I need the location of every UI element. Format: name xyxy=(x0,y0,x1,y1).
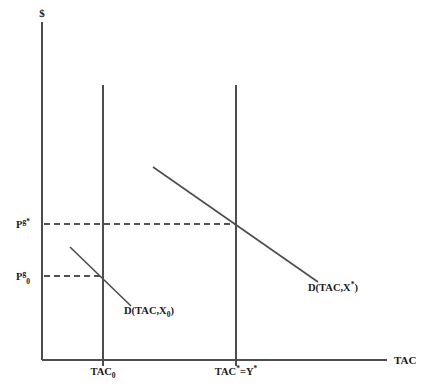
demand-label-x0-suffix: ) xyxy=(170,305,174,317)
supply-demand-diagram: $ TAC Pg* Pg0 TAC0 TAC*=Y xyxy=(0,0,433,389)
x-tick-label-tac-star-tail: =Y xyxy=(240,366,254,377)
x-tick-label-tac0-sub: 0 xyxy=(112,371,116,380)
demand-label-x-star-prefix: D(TAC,X xyxy=(308,282,351,294)
price-label-star: Pg* xyxy=(16,217,30,230)
demand-label-x-star: D(TAC,X*) xyxy=(308,280,358,294)
x-tick-label-tac-star: TAC*=Y* xyxy=(215,364,258,377)
price-label-zero-sub: 0 xyxy=(26,277,30,286)
x-tick-label-tac0: TAC0 xyxy=(90,366,115,380)
demand-label-x0-prefix: D(TAC,X xyxy=(124,305,167,317)
price-label-star-sup-asterisk: * xyxy=(26,217,30,226)
x-axis-title: TAC xyxy=(394,354,416,366)
diagram-canvas: $ TAC Pg* Pg0 TAC0 TAC*=Y xyxy=(0,0,433,389)
price-label-zero: Pg0 xyxy=(16,269,30,286)
y-axis-title: $ xyxy=(39,7,45,19)
x-tick-label-tac-star-tail-sup: * xyxy=(253,364,257,373)
demand-label-x-star-suffix: ) xyxy=(354,282,358,294)
x-tick-label-tac-star-base: TAC xyxy=(215,366,236,377)
x-tick-label-tac0-base: TAC xyxy=(90,366,111,377)
demand-label-x0: D(TAC,X0) xyxy=(124,305,174,319)
